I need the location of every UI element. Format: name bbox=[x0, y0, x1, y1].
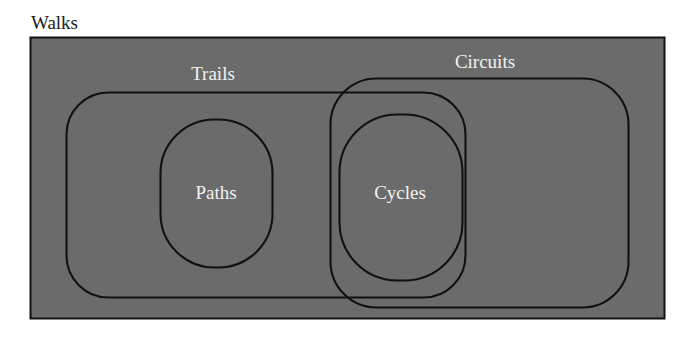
euler-diagram: Walks Trails Circuits Paths Cycles bbox=[0, 0, 690, 340]
cycles-label: Cycles bbox=[374, 182, 426, 203]
circuits-label: Circuits bbox=[455, 51, 515, 72]
paths-label: Paths bbox=[195, 182, 236, 203]
walks-region bbox=[31, 38, 665, 319]
walks-label: Walks bbox=[31, 12, 78, 33]
trails-label: Trails bbox=[191, 63, 235, 84]
diagram-page: Walks Trails Circuits Paths Cycles bbox=[0, 0, 690, 340]
